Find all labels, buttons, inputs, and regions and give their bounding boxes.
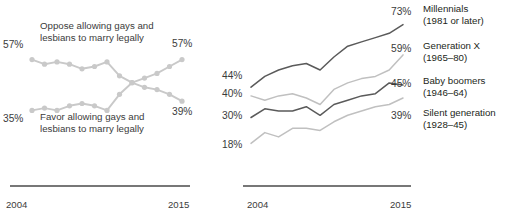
pct-silent-end: 39% <box>391 110 411 121</box>
legend-years-millennials: (1981 or later) <box>423 15 484 27</box>
annotation-oppose-line2: lesbians to marry legally <box>40 32 144 43</box>
line-series-0 <box>251 25 403 88</box>
line-series-1 <box>32 60 182 111</box>
data-point <box>142 76 147 81</box>
legend-years-generation-x: (1965–80) <box>423 52 480 64</box>
axis-year-end-left: 2015 <box>168 199 189 210</box>
line-series-1 <box>251 55 403 105</box>
axis-year-end-right: 2015 <box>390 199 411 210</box>
data-point <box>167 64 172 69</box>
axis-year-start-right: 2004 <box>247 199 268 210</box>
line-series-3 <box>251 98 403 143</box>
pct-favor-end: 57% <box>172 38 192 49</box>
legend-name-generation-x: Generation X <box>423 40 480 52</box>
legend-years-baby-boomers: (1946–64) <box>423 87 485 99</box>
legend-item-millennials: Millennials (1981 or later) <box>423 3 484 26</box>
pct-silent-start: 18% <box>222 139 242 150</box>
pct-genx-start: 40% <box>222 88 242 99</box>
data-point <box>42 106 47 111</box>
data-point <box>179 99 184 104</box>
data-point <box>42 62 47 67</box>
pct-oppose-end: 39% <box>172 106 192 117</box>
data-point <box>92 103 97 108</box>
chart-support-by-generation: 44% 40% 30% 18% 73% 59% 45% 39% Millenni… <box>243 0 509 221</box>
data-point <box>29 108 34 113</box>
pct-oppose-start: 57% <box>3 39 23 50</box>
legend-name-baby-boomers: Baby boomers <box>423 75 485 87</box>
annotation-favor-line1: Favor allowing gays and <box>40 111 144 122</box>
data-point <box>117 92 122 97</box>
pct-millennials-end: 73% <box>391 6 411 17</box>
annotation-oppose: Oppose allowing gays and lesbians to mar… <box>40 20 154 44</box>
data-point <box>67 103 72 108</box>
legend-name-silent-generation: Silent generation <box>423 107 496 119</box>
legend-item-silent-generation: Silent generation (1928–45) <box>423 107 496 130</box>
legend-name-millennials: Millennials <box>423 3 484 15</box>
data-point <box>54 59 59 64</box>
pct-boomers-end: 45% <box>391 78 411 89</box>
line-series-2 <box>251 83 403 118</box>
data-point <box>129 80 134 85</box>
data-point <box>67 62 72 67</box>
legend-years-silent-generation: (1928–45) <box>423 119 496 131</box>
data-point <box>104 59 109 64</box>
annotation-favor: Favor allowing gays and lesbians to marr… <box>40 111 144 135</box>
line-series-0 <box>32 60 182 102</box>
data-point <box>167 92 172 97</box>
data-point <box>79 101 84 106</box>
legend-item-generation-x: Generation X (1965–80) <box>423 40 480 63</box>
legend-item-baby-boomers: Baby boomers (1946–64) <box>423 75 485 98</box>
data-point <box>142 85 147 90</box>
axis-year-start-left: 2004 <box>6 199 27 210</box>
data-point <box>117 73 122 78</box>
annotation-favor-line2: lesbians to marry legally <box>40 123 144 134</box>
chart-overall-support: Oppose allowing gays and lesbians to mar… <box>0 0 215 221</box>
pct-millennials-start: 44% <box>222 70 242 81</box>
pct-boomers-start: 30% <box>222 110 242 121</box>
data-point <box>79 66 84 71</box>
data-point <box>29 57 34 62</box>
annotation-oppose-line1: Oppose allowing gays and <box>40 20 154 31</box>
data-point <box>154 71 159 76</box>
data-point <box>179 57 184 62</box>
data-point <box>154 87 159 92</box>
pct-favor-start: 35% <box>3 113 23 124</box>
data-point <box>92 64 97 69</box>
pct-genx-end: 59% <box>391 43 411 54</box>
